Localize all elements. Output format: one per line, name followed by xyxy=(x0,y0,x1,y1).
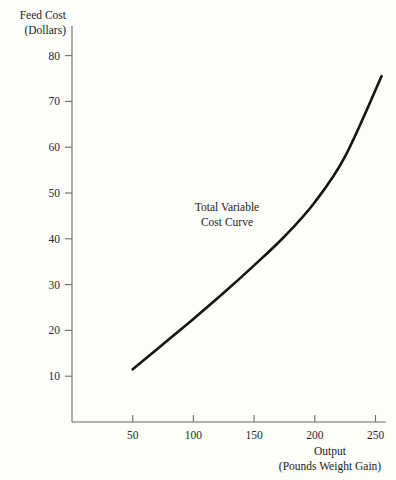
x-axis-ticks: 50100150200250 xyxy=(127,415,384,441)
y-tick-label: 10 xyxy=(49,370,61,382)
chart-container: Feed Cost (Dollars) Output (Pounds Weigh… xyxy=(0,0,396,480)
y-tick-label: 50 xyxy=(49,187,61,199)
plot-area: 1020304050607080 50100150200250 xyxy=(0,0,396,480)
y-tick-label: 40 xyxy=(49,233,61,245)
y-tick-label: 60 xyxy=(49,141,61,153)
y-tick-label: 30 xyxy=(49,279,61,291)
x-tick-label: 150 xyxy=(245,429,263,441)
y-tick-label: 20 xyxy=(49,324,61,336)
y-tick-label: 70 xyxy=(49,95,61,107)
x-tick-label: 250 xyxy=(367,429,385,441)
y-tick-label: 80 xyxy=(49,50,61,62)
total-variable-cost-curve xyxy=(133,76,382,369)
x-tick-label: 100 xyxy=(185,429,203,441)
x-tick-label: 50 xyxy=(127,429,139,441)
y-axis-ticks: 1020304050607080 xyxy=(49,50,73,383)
x-tick-label: 200 xyxy=(306,429,324,441)
